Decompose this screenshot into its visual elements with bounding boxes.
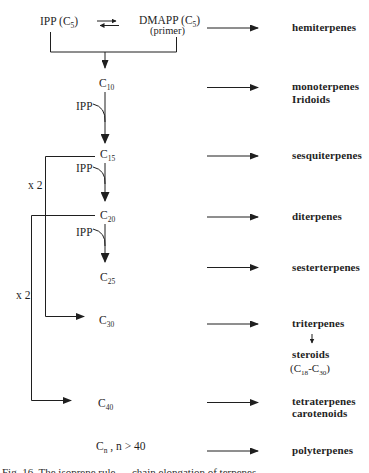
- product-tetraterpenes: tetraterpenes: [292, 395, 356, 408]
- product-iridoids: Iridoids: [292, 93, 330, 106]
- product-steroids: steroids: [292, 348, 329, 361]
- product-carotenoids: carotenoids: [292, 407, 347, 420]
- ipp-addition-label-3: IPP: [76, 226, 93, 239]
- x2-label-c20-c40: x 2: [16, 289, 30, 302]
- product-monoterpenes: monoterpenes: [292, 80, 359, 93]
- node-c25: C25: [100, 271, 115, 284]
- term-ipp-c5: IPP (C5): [40, 15, 78, 28]
- product-hemiterpenes: hemiterpenes: [292, 21, 356, 34]
- node-c15: C15: [100, 148, 115, 161]
- ipp-curve-2: [93, 167, 105, 184]
- ipp-addition-label-2: IPP: [76, 162, 93, 175]
- x2-bracket-c20-c40: [32, 216, 96, 401]
- terpene-biosynthesis-diagram: IPP (C5) DMAPP (C5) (primer) C10 C15 C20…: [0, 0, 369, 473]
- product-sesquiterpenes: sesquiterpenes: [292, 149, 362, 162]
- node-c10: C10: [99, 77, 114, 90]
- product-triterpenes: triterpenes: [292, 317, 344, 330]
- ipp-curve-3: [93, 229, 105, 246]
- product-sesterterpenes: sesterterpenes: [292, 261, 360, 274]
- ipp-addition-label-1: IPP: [76, 100, 93, 113]
- steroids-carbon-range: (C18-C30): [290, 362, 330, 374]
- ipp-curve-1: [93, 104, 105, 122]
- product-diterpenes: diterpenes: [292, 210, 342, 223]
- node-cn: Cn , n > 40: [96, 440, 146, 453]
- node-c20: C20: [100, 209, 115, 222]
- product-polyterpenes: polyterpenes: [292, 444, 353, 457]
- node-c30: C30: [99, 314, 114, 327]
- cutoff-caption-fragment: Fig. 16. The isoprene rule — chain elong…: [2, 467, 262, 473]
- node-c40: C40: [98, 397, 113, 410]
- term-primer: (primer): [150, 25, 185, 37]
- x2-label-c15-c30: x 2: [28, 179, 42, 192]
